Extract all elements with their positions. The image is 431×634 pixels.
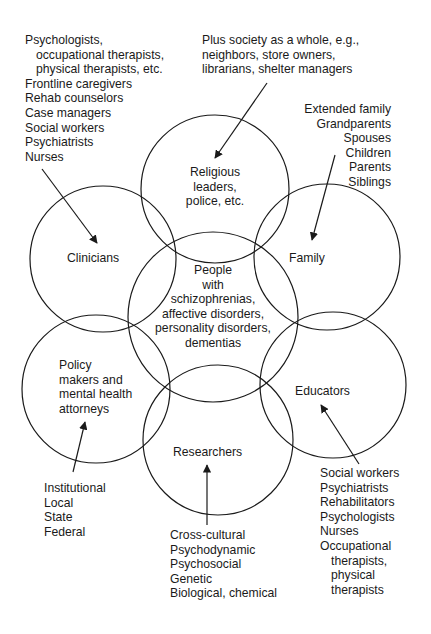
- list-item: Psychologists: [320, 510, 399, 525]
- educators-arrow-icon: [321, 405, 359, 464]
- label-line: People: [143, 263, 283, 278]
- label-line: attorneys: [59, 402, 132, 417]
- clinicians-annotation-list: Psychologists, occupational therapists, …: [25, 33, 164, 164]
- list-item: Social workers: [25, 121, 164, 136]
- list-item: Siblings: [304, 175, 391, 190]
- label-line: makers and: [59, 373, 132, 388]
- label-line: Family: [289, 251, 325, 266]
- list-item: Genetic: [170, 572, 277, 587]
- list-item: Rehabilitators: [320, 495, 399, 510]
- list-item: Federal: [44, 525, 106, 540]
- people-circle-label: People with schizophrenias, affective di…: [143, 263, 283, 351]
- list-item: physical: [320, 568, 399, 583]
- society-annotation-list: Plus society as a whole, e.g., neighbors…: [202, 33, 359, 77]
- list-item: therapists: [320, 583, 399, 598]
- label-line: leaders,: [160, 180, 270, 195]
- list-item: Case managers: [25, 106, 164, 121]
- researchers-annotation-list: Cross-cultural Psychodynamic Psychosocia…: [170, 528, 277, 601]
- list-item: Psychiatrists: [320, 481, 399, 496]
- list-item: Psychodynamic: [170, 543, 277, 558]
- label-line: Religious: [160, 165, 270, 180]
- policy-annotation-list: Institutional Local State Federal: [44, 481, 106, 539]
- family-circle-label: Family: [289, 251, 325, 266]
- label-line: Educators: [295, 384, 350, 399]
- clinicians-circle-label: Clinicians: [67, 251, 119, 266]
- label-line: Clinicians: [67, 251, 119, 266]
- list-item: neighbors, store owners,: [202, 48, 359, 63]
- list-item: therapists,: [320, 554, 399, 569]
- list-item: Cross-cultural: [170, 528, 277, 543]
- list-item: Psychosocial: [170, 557, 277, 572]
- policy-arrow-icon: [73, 422, 85, 472]
- list-item: Children: [304, 146, 391, 161]
- religious-circle-label: Religious leaders, police, etc.: [160, 165, 270, 209]
- list-item: State: [44, 510, 106, 525]
- list-item: Nurses: [25, 150, 164, 165]
- clinicians-arrow-icon: [42, 169, 97, 243]
- label-line: affective disorders,: [143, 307, 283, 322]
- family-annotation-list: Extended family Grandparents Spouses Chi…: [304, 102, 391, 190]
- list-item: librarians, shelter managers: [202, 62, 359, 77]
- list-item: Nurses: [320, 524, 399, 539]
- list-item: Rehab counselors: [25, 91, 164, 106]
- policy-circle-label: Policy makers and mental health attorney…: [59, 358, 132, 416]
- label-line: mental health: [59, 387, 132, 402]
- list-item: Spouses: [304, 131, 391, 146]
- list-item: Psychologists,: [25, 33, 164, 48]
- list-item: Occupational: [320, 539, 399, 554]
- label-line: dementias: [143, 336, 283, 351]
- list-item: Institutional: [44, 481, 106, 496]
- educators-circle-label: Educators: [295, 384, 350, 399]
- list-item: Parents: [304, 160, 391, 175]
- list-item: Extended family: [304, 102, 391, 117]
- label-line: police, etc.: [160, 194, 270, 209]
- list-item: Biological, chemical: [170, 586, 277, 601]
- list-item: Grandparents: [304, 117, 391, 132]
- list-item: Frontline caregivers: [25, 77, 164, 92]
- list-item: Plus society as a whole, e.g.,: [202, 33, 359, 48]
- religious-arrow-icon: [215, 83, 267, 158]
- educators-annotation-list: Social workers Psychiatrists Rehabilitat…: [320, 466, 399, 597]
- label-line: Researchers: [173, 445, 242, 460]
- label-line: Policy: [59, 358, 132, 373]
- label-line: with: [143, 278, 283, 293]
- list-item: Social workers: [320, 466, 399, 481]
- list-item: physical therapists, etc.: [25, 62, 164, 77]
- list-item: Psychiatrists: [25, 135, 164, 150]
- label-line: personality disorders,: [143, 321, 283, 336]
- list-item: occupational therapists,: [25, 48, 164, 63]
- researchers-circle-label: Researchers: [173, 445, 242, 460]
- label-line: schizophrenias,: [143, 292, 283, 307]
- list-item: Local: [44, 496, 106, 511]
